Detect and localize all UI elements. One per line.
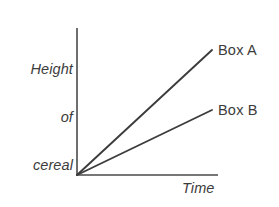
series-line-box-b: [77, 110, 212, 175]
series-line-box-a: [77, 50, 212, 175]
series-label-box-b: Box B: [218, 102, 258, 118]
y-axis-label-line-1: Height: [0, 61, 73, 77]
y-axis-label-line-2: of: [0, 109, 73, 125]
cereal-height-line-chart: Height of cereal Time Box A Box B: [0, 0, 279, 207]
y-axis-label-line-3: cereal: [0, 157, 73, 173]
series-label-box-a: Box A: [218, 42, 257, 58]
x-axis-label: Time: [182, 180, 215, 196]
y-axis-label: Height of cereal: [0, 29, 73, 205]
